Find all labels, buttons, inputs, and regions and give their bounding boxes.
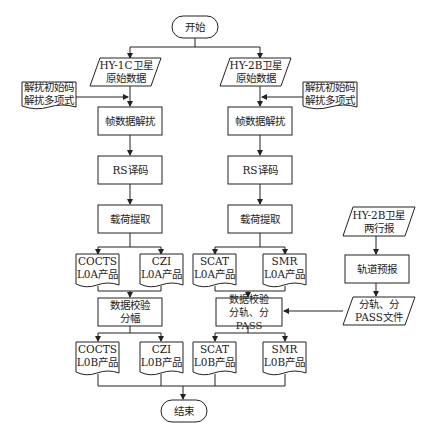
left-czi-l0a-doc: CZI L0A产品 (140, 254, 183, 282)
left-cocts-l0a-doc: COCTS L0A产品 (76, 254, 119, 282)
right-data-check-orbit-pass: 数据校验 分轨、分PASS (216, 298, 282, 326)
left-frame-descramble: 帧数据解扰 (98, 107, 162, 135)
start-node: 开始 (172, 16, 218, 38)
right-descramble-params-doc: 解扰初始码 解扰多项式 (303, 82, 357, 106)
right-scat-l0b-doc: SCAT L0B产品 (193, 342, 236, 370)
right-smr-l0b-doc: SMR L0B产品 (263, 342, 306, 370)
left-payload-extract: 载荷提取 (98, 205, 162, 233)
left-cocts-l0b-doc: COCTS L0B产品 (76, 342, 119, 370)
right-scat-l0a-doc: SCAT L0A产品 (193, 254, 236, 282)
left-rs-decode: RS译码 (98, 156, 162, 184)
end-node: 结束 (161, 400, 207, 422)
left-descramble-params-doc: 解扰初始码 解扰多项式 (22, 82, 76, 106)
right-rs-decode: RS译码 (228, 156, 292, 184)
left-input-hy1c-raw-data: HY-1C卫星 原始数据 (92, 58, 160, 86)
left-czi-l0b-doc: CZI L0B产品 (140, 342, 183, 370)
right-frame-descramble: 帧数据解扰 (228, 107, 292, 135)
orbit-input-tle: HY-2B卫星 两行报 (346, 207, 412, 236)
right-input-hy2b-raw-data: HY-2B卫星 原始数据 (222, 58, 290, 86)
orbit-prediction: 轨道预报 (345, 255, 409, 283)
right-smr-l0a-doc: SMR L0A产品 (263, 254, 306, 282)
left-data-check-framing: 数据校验 分幅 (98, 298, 162, 326)
right-payload-extract: 载荷提取 (228, 205, 292, 233)
orbit-pass-file-output: 分轨、分 PASS文件 (346, 297, 412, 325)
